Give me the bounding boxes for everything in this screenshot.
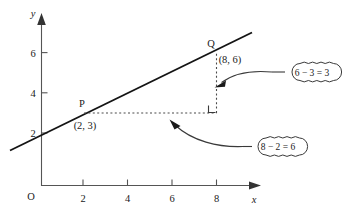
x-tick-label-4: 4 <box>125 193 131 204</box>
x-tick-label-6: 6 <box>169 193 174 204</box>
vertical-change-callout: 6 − 3 = 3 <box>292 62 342 82</box>
x-axis-label: x <box>251 194 257 205</box>
x-tick-label-2: 2 <box>80 193 85 204</box>
x-tick-label-8: 8 <box>214 193 219 204</box>
y-tick-label-6: 6 <box>30 48 35 59</box>
y-tick-label-4: 4 <box>30 88 36 99</box>
figure-canvas: 2 4 6 8 2 4 6 y x O P (2, 3) Q (8, 6) <box>0 0 346 216</box>
point-label-p: P <box>79 98 85 109</box>
right-angle-marker <box>209 106 216 113</box>
coordinate-geometry-figure: 2 4 6 8 2 4 6 y x O P (2, 3) Q (8, 6) <box>0 0 346 216</box>
y-axis-arrowhead <box>37 13 46 25</box>
vertical-callout-arrow-curve <box>222 71 273 82</box>
horizontal-callout-arrow-curve <box>175 125 243 147</box>
point-coordinates-p: (2, 3) <box>74 120 97 132</box>
origin-label: O <box>27 191 35 202</box>
y-axis-label: y <box>30 8 36 19</box>
point-label-q: Q <box>207 38 215 49</box>
x-axis-arrowhead <box>249 181 261 189</box>
vertical-callout-text: 6 − 3 = 3 <box>295 68 330 78</box>
horizontal-change-callout: 8 − 2 = 6 <box>258 137 308 157</box>
line-through-p-and-q <box>10 33 252 151</box>
point-coordinates-q: (8, 6) <box>219 54 242 66</box>
horizontal-callout-text: 8 − 2 = 6 <box>261 142 296 152</box>
